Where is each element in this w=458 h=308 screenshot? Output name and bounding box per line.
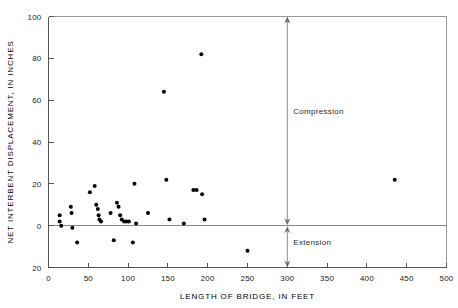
plot-canvas: 1008060402002005010015020025030035040045… <box>0 0 458 308</box>
data-point <box>200 192 204 196</box>
x-tick-label: 500 <box>440 274 454 283</box>
data-point <box>112 238 116 242</box>
data-point <box>199 52 203 56</box>
data-point <box>58 219 62 223</box>
x-tick-label: 450 <box>400 274 414 283</box>
data-point <box>131 240 135 244</box>
data-point <box>167 217 171 221</box>
y-tick-label: 20 <box>32 180 42 189</box>
data-point <box>59 224 63 228</box>
data-point <box>127 219 131 223</box>
x-tick-label: 400 <box>360 274 374 283</box>
x-tick-label: 300 <box>280 274 294 283</box>
y-tick-label: 20 <box>32 264 42 273</box>
x-tick-label: 0 <box>46 274 51 283</box>
data-point <box>134 222 138 226</box>
data-point <box>75 240 79 244</box>
plot-frame <box>49 17 447 268</box>
data-point-group <box>58 52 397 253</box>
x-tick-label: 350 <box>320 274 334 283</box>
x-tick-label: 50 <box>84 274 94 283</box>
data-point <box>195 188 199 192</box>
data-point <box>69 205 73 209</box>
data-point <box>246 249 250 253</box>
y-tick-label: 40 <box>32 138 42 147</box>
data-point <box>118 213 122 217</box>
data-point <box>164 178 168 182</box>
data-point <box>88 190 92 194</box>
data-point <box>99 219 103 223</box>
y-tick-label: 0 <box>37 222 42 231</box>
data-point <box>96 207 100 211</box>
y-tick-label: 60 <box>32 96 42 105</box>
y-tick-label: 80 <box>32 54 42 63</box>
data-point <box>393 178 397 182</box>
compression-annotation-label: Compression <box>293 107 343 116</box>
x-axis-title: LENGTH OF BRIDGE, IN FEET <box>180 292 315 301</box>
data-point <box>94 203 98 207</box>
data-point <box>93 184 97 188</box>
data-point <box>146 211 150 215</box>
data-point <box>117 205 121 209</box>
data-point <box>97 213 101 217</box>
y-axis-title: NET INTERBENT DISPLACEMENT, IN INCHES <box>6 40 15 243</box>
data-point <box>58 213 62 217</box>
x-tick-label: 100 <box>121 274 135 283</box>
data-point <box>162 90 166 94</box>
data-point <box>109 211 113 215</box>
data-point <box>70 226 74 230</box>
data-point <box>70 211 74 215</box>
data-point <box>203 217 207 221</box>
scatter-plot-figure: 1008060402002005010015020025030035040045… <box>0 0 458 308</box>
extension-annotation-label: Extension <box>293 238 331 247</box>
x-tick-label: 150 <box>161 274 175 283</box>
x-tick-label: 250 <box>241 274 255 283</box>
data-point <box>132 182 136 186</box>
data-point <box>182 222 186 226</box>
data-point <box>115 201 119 205</box>
y-tick-label: 100 <box>28 13 42 22</box>
x-tick-label: 200 <box>201 274 215 283</box>
